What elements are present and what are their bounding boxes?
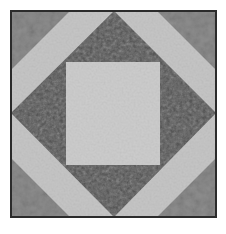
light-gray-center-square [66,62,160,165]
geometric-figure [0,0,226,234]
image-canvas [0,0,226,234]
